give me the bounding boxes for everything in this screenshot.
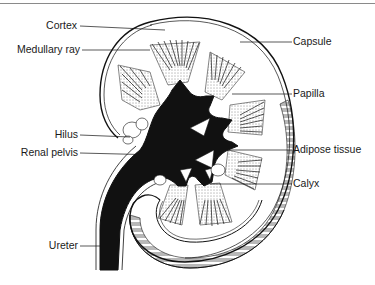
label-medullary-ray: Medullary ray (8, 43, 80, 55)
label-adipose-tissue: Adipose tissue (293, 143, 361, 155)
label-calyx: Calyx (293, 177, 319, 189)
label-ureter: Ureter (40, 239, 78, 251)
label-cortex: Cortex (40, 19, 77, 31)
label-capsule: Capsule (293, 35, 332, 47)
label-hilus: Hilus (40, 128, 78, 140)
label-papilla: Papilla (293, 87, 325, 99)
label-renal-pelvis: Renal pelvis (10, 146, 78, 158)
